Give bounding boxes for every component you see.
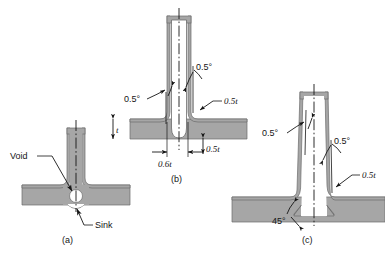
panel-c-caption: (c) xyxy=(302,235,313,245)
panel-c-draft-left-label: 0.5° xyxy=(262,128,279,138)
panel-a-void-label: Void xyxy=(10,151,28,161)
panel-b-draft-left-label: 0.5° xyxy=(124,94,141,104)
panel-c-base-angle-label: 45° xyxy=(272,216,286,226)
panel-c-fillet-radius-label: 0.5t xyxy=(362,170,376,180)
engineering-diagram: Void Sink (a) 0.5° 0.5° xyxy=(0,0,385,254)
panel-b-fillet-radius-label: 0.5t xyxy=(224,96,238,106)
panel-b-rib-width-label: 0.6t xyxy=(158,159,172,169)
panel-a-sink-label: Sink xyxy=(95,220,113,230)
panel-b-base-radius-label: 0.5t xyxy=(206,144,220,154)
panel-b-caption: (b) xyxy=(171,174,182,184)
panel-a-caption: (a) xyxy=(62,235,73,245)
figure-canvas: Void Sink (a) 0.5° 0.5° xyxy=(0,0,385,254)
panel-b-draft-right-label: 0.5° xyxy=(196,62,213,72)
panel-c-draft-right-label: 0.5° xyxy=(334,136,351,146)
